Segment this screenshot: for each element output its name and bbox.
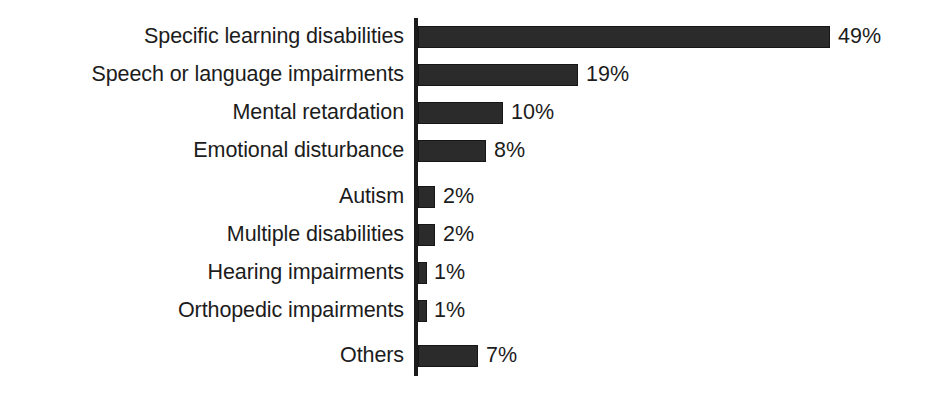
bar-value-label: 49% [838, 26, 881, 48]
category-label: Hearing impairments [0, 262, 404, 284]
bar [418, 26, 830, 48]
bar [418, 140, 486, 162]
bar-chart: Specific learning disabilities 49% Speec… [0, 0, 933, 395]
bar-value-label: 19% [586, 64, 629, 86]
bar-value-label: 10% [511, 102, 554, 124]
chart-row: Emotional disturbance 8% [0, 140, 933, 162]
category-label: Emotional disturbance [0, 140, 404, 162]
chart-row: Mental retardation 10% [0, 102, 933, 124]
chart-row: Autism 2% [0, 186, 933, 208]
chart-row: Orthopedic impairments 1% [0, 300, 933, 322]
chart-row: Specific learning disabilities 49% [0, 26, 933, 48]
category-label: Multiple disabilities [0, 224, 404, 246]
bar-value-label: 8% [494, 140, 525, 162]
chart-row: Speech or language impairments 19% [0, 64, 933, 86]
bar-value-label: 7% [486, 345, 517, 367]
bar [418, 262, 427, 284]
bar-value-label: 1% [434, 300, 465, 322]
bar [418, 224, 435, 246]
bar [418, 345, 478, 367]
bar [418, 102, 503, 124]
category-label: Orthopedic impairments [0, 300, 404, 322]
bar [418, 186, 435, 208]
bar [418, 64, 578, 86]
bar [418, 300, 427, 322]
category-label: Mental retardation [0, 102, 404, 124]
bar-value-label: 1% [434, 262, 465, 284]
category-label: Others [0, 345, 404, 367]
category-label: Autism [0, 186, 404, 208]
category-label: Speech or language impairments [0, 64, 404, 86]
bar-value-label: 2% [443, 186, 474, 208]
chart-row: Hearing impairments 1% [0, 262, 933, 284]
bar-value-label: 2% [443, 224, 474, 246]
chart-row: Others 7% [0, 345, 933, 367]
plot-area: Specific learning disabilities 49% Speec… [0, 0, 933, 395]
chart-row: Multiple disabilities 2% [0, 224, 933, 246]
category-label: Specific learning disabilities [0, 26, 404, 48]
